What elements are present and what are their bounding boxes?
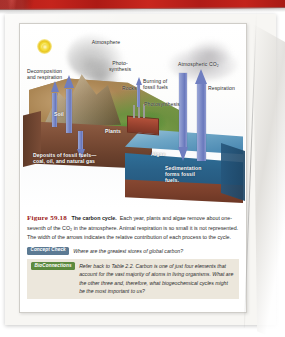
arrow-respiration xyxy=(195,69,207,161)
arrow-photosynthesis-ocean xyxy=(177,73,188,161)
page-corner-curl xyxy=(253,24,285,337)
label-respiration: Respiration xyxy=(208,85,245,91)
label-soil: Soil xyxy=(54,111,72,117)
figure-title: The carbon cycle. xyxy=(72,215,117,221)
arrow-photosynthesis-land xyxy=(65,75,73,133)
bioconnections-badge[interactable]: BioConnections xyxy=(31,262,75,270)
figure-number: Figure 59.18 xyxy=(27,214,67,222)
concept-check-row: Concept Check Where are the greatest sto… xyxy=(27,247,239,255)
carbon-cycle-illustration: Atmosphere Photo- synthesis Decompositio… xyxy=(21,25,245,208)
label-fossil-fuel-deposits: Deposits of fossil fuels— coal, oil, and… xyxy=(33,152,123,164)
concept-check-question: Where are the greatest stores of global … xyxy=(73,247,183,255)
ocean-side-face xyxy=(221,143,245,201)
label-decomposition: Decomposition and respiration xyxy=(27,68,83,80)
label-atmosphere: Atmosphere xyxy=(84,39,128,45)
label-algae: Algae xyxy=(151,151,173,157)
label-photosynthesis-land: Photo- synthesis xyxy=(107,60,133,72)
figure-caption-block: Figure 59.18 The carbon cycle. Each year… xyxy=(21,209,245,311)
label-plants: Plants xyxy=(105,128,129,134)
label-atmospheric-co2: Atmospheric CO₂ xyxy=(178,61,240,67)
arrow-burning-fossil-fuels xyxy=(136,77,141,107)
label-burning-fossil-fuels: Burning of fossil fuels xyxy=(143,78,177,90)
caption-paragraph: Figure 59.18 The carbon cycle. Each year… xyxy=(27,213,239,242)
arrow-decomposition-respiration xyxy=(51,81,58,127)
label-sedimentation: Sedimentation forms fossil fuels. xyxy=(165,165,223,183)
label-photosynthesis-ocean: Photosynthesis xyxy=(144,101,196,107)
textbook-page: Atmosphere Photo- synthesis Decompositio… xyxy=(5,14,276,325)
banner-shadow xyxy=(0,7,285,14)
concept-check-badge[interactable]: Concept Check xyxy=(27,247,69,255)
bioconnections-row: BioConnections Refer back to Table 2.2. … xyxy=(27,259,239,299)
figure-card: Atmosphere Photo- synthesis Decompositio… xyxy=(19,23,247,313)
smokestack xyxy=(133,105,135,118)
sun-core-icon xyxy=(42,44,48,50)
bioconnections-question: Refer back to Table 2.2. Carbon is one o… xyxy=(79,262,235,295)
factory-building xyxy=(127,116,159,136)
